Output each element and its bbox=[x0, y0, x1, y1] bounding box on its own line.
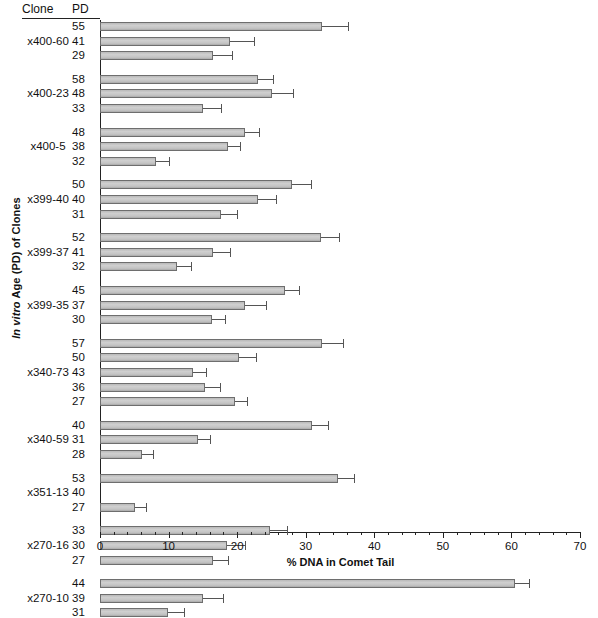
x-tick-label: 40 bbox=[354, 540, 394, 552]
error-bar-cap bbox=[339, 233, 340, 242]
x-tick-major bbox=[374, 532, 375, 538]
error-bar-line bbox=[321, 237, 339, 238]
x-tick-label: 50 bbox=[423, 540, 463, 552]
bar bbox=[100, 233, 321, 242]
error-bar-line bbox=[312, 425, 328, 426]
x-tick-label: 30 bbox=[286, 540, 326, 552]
error-bar-cap bbox=[254, 37, 255, 46]
bar bbox=[100, 142, 228, 151]
clone-label: x399-40 bbox=[18, 193, 78, 205]
x-tick-minor bbox=[182, 532, 183, 535]
bar bbox=[100, 286, 285, 295]
error-bar-line bbox=[198, 439, 210, 440]
bar bbox=[100, 397, 235, 406]
pd-label: 52 bbox=[72, 231, 96, 243]
clone-label: x340-59 bbox=[18, 433, 78, 445]
error-bar-cap bbox=[259, 128, 260, 137]
error-bar-cap bbox=[206, 368, 207, 377]
error-bar-cap bbox=[146, 503, 147, 512]
error-bar-cap bbox=[266, 301, 267, 310]
error-bar-line bbox=[156, 161, 169, 162]
error-bar-cap bbox=[220, 383, 221, 392]
error-bar-line bbox=[212, 319, 225, 320]
pd-label: 33 bbox=[72, 102, 96, 114]
x-tick-label: 70 bbox=[560, 540, 598, 552]
x-tick-minor bbox=[553, 532, 554, 535]
bar bbox=[100, 383, 205, 392]
pd-label: 31 bbox=[72, 208, 96, 220]
x-tick-minor bbox=[525, 532, 526, 535]
x-tick-minor bbox=[223, 532, 224, 535]
bar bbox=[100, 75, 258, 84]
bar bbox=[100, 301, 245, 310]
header-divider bbox=[22, 18, 100, 19]
clone-label: x400-23 bbox=[18, 87, 78, 99]
bar bbox=[100, 503, 135, 512]
x-tick-minor bbox=[333, 532, 334, 535]
error-bar-cap bbox=[293, 89, 294, 98]
x-tick-major bbox=[100, 532, 101, 538]
bar bbox=[100, 22, 322, 31]
pd-label: 32 bbox=[72, 155, 96, 167]
error-bar-line bbox=[228, 146, 240, 147]
bar bbox=[100, 368, 193, 377]
error-bar-line bbox=[213, 252, 229, 253]
bar bbox=[100, 353, 239, 362]
pd-label: 58 bbox=[72, 73, 96, 85]
error-bar-line bbox=[272, 93, 293, 94]
pd-label: 36 bbox=[72, 381, 96, 393]
bar bbox=[100, 339, 322, 348]
error-bar-cap bbox=[343, 339, 344, 348]
x-tick-minor bbox=[484, 532, 485, 535]
x-tick-major bbox=[169, 532, 170, 538]
x-tick-minor bbox=[155, 532, 156, 535]
x-tick-minor bbox=[539, 532, 540, 535]
error-bar-line bbox=[322, 26, 348, 27]
x-tick-label: 10 bbox=[149, 540, 189, 552]
error-bar-cap bbox=[221, 104, 222, 113]
error-bar-cap bbox=[287, 526, 288, 535]
pd-label: 29 bbox=[72, 49, 96, 61]
column-header-pd: PD bbox=[72, 2, 102, 18]
pd-label: 27 bbox=[72, 395, 96, 407]
bar bbox=[100, 450, 142, 459]
error-bar-line bbox=[235, 401, 247, 402]
bar bbox=[100, 104, 203, 113]
x-tick-minor bbox=[265, 532, 266, 535]
bar bbox=[100, 526, 270, 535]
x-tick-major bbox=[511, 532, 512, 538]
bar bbox=[100, 435, 198, 444]
error-bar-line bbox=[239, 357, 257, 358]
error-bar-line bbox=[292, 184, 311, 185]
error-bar-cap bbox=[223, 594, 224, 603]
x-tick-minor bbox=[251, 532, 252, 535]
pd-label: 40 bbox=[72, 419, 96, 431]
error-bar-cap bbox=[232, 51, 233, 60]
error-bar-line bbox=[213, 55, 232, 56]
bar bbox=[100, 315, 212, 324]
x-tick-minor bbox=[402, 532, 403, 535]
error-bar-line bbox=[245, 132, 259, 133]
x-tick-label: 60 bbox=[491, 540, 531, 552]
error-bar-cap bbox=[169, 157, 170, 166]
error-bar-cap bbox=[299, 286, 300, 295]
bar bbox=[100, 210, 221, 219]
error-bar-line bbox=[135, 507, 146, 508]
error-bar-cap bbox=[273, 75, 274, 84]
error-bar-line bbox=[203, 108, 221, 109]
pd-label: 30 bbox=[72, 313, 96, 325]
x-tick-minor bbox=[429, 532, 430, 535]
x-tick-label: 20 bbox=[217, 540, 257, 552]
error-bar-line bbox=[515, 583, 529, 584]
error-bar-cap bbox=[184, 608, 185, 617]
x-tick-minor bbox=[566, 532, 567, 535]
error-bar-cap bbox=[276, 195, 277, 204]
error-bar-line bbox=[168, 612, 184, 613]
error-bar-line bbox=[205, 387, 220, 388]
error-bar-cap bbox=[256, 353, 257, 362]
clone-label: x351-13 bbox=[18, 486, 78, 498]
clone-label: x340-73 bbox=[18, 366, 78, 378]
error-bar-cap bbox=[210, 435, 211, 444]
bar bbox=[100, 128, 245, 137]
